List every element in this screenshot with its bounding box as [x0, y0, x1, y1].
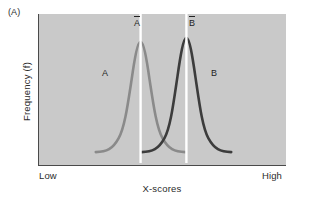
figure-panel-a: (A) Frequency (f) A B A B Low High X-sco…	[0, 0, 312, 203]
x-axis-title: X-scores	[38, 183, 286, 194]
mean-b-annotation: B	[189, 16, 195, 28]
curve-a-label: A	[102, 68, 108, 78]
y-axis-title: Frequency (f)	[21, 32, 32, 152]
x-axis-low-label: Low	[39, 170, 57, 181]
curve-b-label: B	[211, 68, 217, 78]
mean-a-annotation: A	[134, 16, 140, 28]
plot-area: A B A B	[38, 14, 286, 166]
mean-a-overbar	[134, 16, 140, 17]
distribution-curves	[39, 14, 286, 165]
mean-b-overbar	[189, 16, 195, 17]
x-axis-high-label: High	[262, 170, 282, 181]
panel-label: (A)	[8, 7, 20, 18]
mean-a-letter: A	[134, 18, 140, 28]
mean-b-letter: B	[189, 18, 195, 28]
